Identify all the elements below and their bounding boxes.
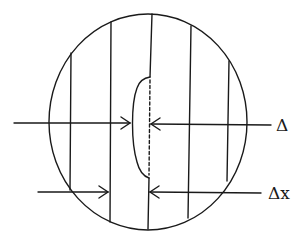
fringe-line-center-dashed — [149, 80, 150, 175]
fringe-line-center-top — [150, 14, 152, 77]
fringe-diagram — [0, 0, 306, 237]
delta-arrow-right-shaft — [151, 124, 271, 125]
delta-label: Δ — [276, 117, 288, 134]
fringe-line-2 — [110, 22, 111, 222]
delta-x-label: Δx — [268, 185, 290, 202]
fringe-line-5 — [227, 61, 229, 181]
fringe-bulge — [133, 77, 151, 178]
fringe-line-center-bottom — [148, 178, 149, 229]
delta-x-arrow-right-shaft — [150, 192, 261, 193]
fringe-line-4 — [188, 26, 191, 218]
fringe-line-1 — [70, 53, 71, 190]
